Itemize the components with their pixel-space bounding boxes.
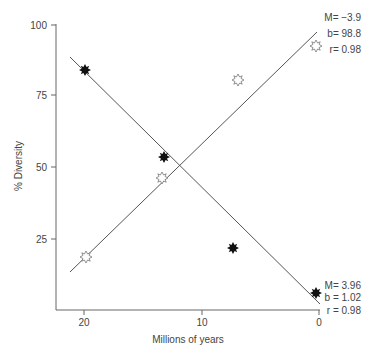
open-star-marker xyxy=(310,40,322,52)
y-tick-100: 100 xyxy=(30,20,47,31)
filled-star-marker xyxy=(227,242,239,254)
annot-bot-m: M= 3.96 xyxy=(325,280,362,291)
x-tick-0: 0 xyxy=(316,317,322,328)
y-tick-25: 25 xyxy=(36,234,48,245)
open-star-marker xyxy=(232,74,244,86)
fit-line-declining xyxy=(70,57,320,304)
annot-top-b: b= 98.8 xyxy=(327,28,361,39)
x-axis-label: Millions of years xyxy=(152,334,224,345)
annotation-bottom: M= 3.96 b = 1.02 r = 0.98 xyxy=(325,280,362,316)
filled-star-marker xyxy=(310,287,322,299)
fit-line-increasing xyxy=(70,32,317,272)
x-ticks xyxy=(84,310,319,315)
annot-bot-b: b = 1.02 xyxy=(325,292,362,303)
y-tick-75: 75 xyxy=(36,90,48,101)
annot-bot-r: r = 0.98 xyxy=(327,305,362,316)
y-tick-50: 50 xyxy=(36,162,48,173)
annotation-top: M= −3.9 b= 98.8 r= 0.98 xyxy=(324,12,361,55)
chart: 100 75 50 25 20 10 0 Millions of years %… xyxy=(0,0,376,358)
filled-star-marker xyxy=(79,64,91,76)
open-star-marker xyxy=(80,251,92,263)
series-filled-stars xyxy=(79,64,322,299)
x-tick-10: 10 xyxy=(196,317,208,328)
open-star-marker xyxy=(156,172,168,184)
y-ticks xyxy=(51,25,56,239)
filled-star-marker xyxy=(158,151,170,163)
series-open-stars xyxy=(80,40,322,263)
y-axis-label: % Diversity xyxy=(13,141,24,191)
annot-top-r: r= 0.98 xyxy=(330,44,362,55)
x-tick-20: 20 xyxy=(78,317,90,328)
annot-top-m: M= −3.9 xyxy=(324,12,361,23)
